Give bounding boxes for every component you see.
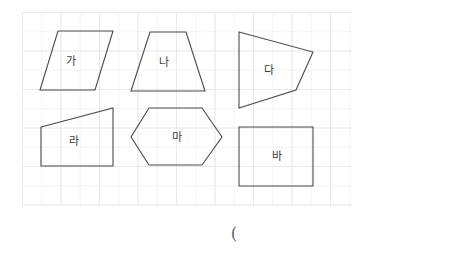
shape-label-ga: 가 <box>66 56 76 67</box>
shape-label-ba: 바 <box>272 151 282 162</box>
graph-paper-grid <box>22 12 352 206</box>
shape-label-ra: 라 <box>69 136 79 147</box>
answer-parenthesis: ( <box>231 225 238 242</box>
shape-label-ma: 마 <box>172 132 182 143</box>
shape-label-na: 나 <box>159 57 169 68</box>
shape-label-da: 다 <box>264 65 274 76</box>
worksheet-page: 가 나 다 라 마 바 ( <box>0 0 454 254</box>
